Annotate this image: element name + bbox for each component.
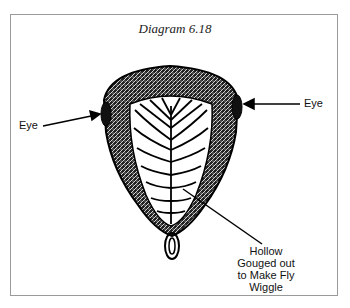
hollow-line-3: to Make Fly <box>226 269 306 281</box>
eye-label-left: Eye <box>19 119 38 131</box>
eye-label-right: Eye <box>304 97 323 109</box>
hollow-line-2: Gouged out <box>226 257 306 269</box>
hollow-line-1: Hollow <box>226 245 306 257</box>
hollow-line-4: Wiggle <box>226 281 306 293</box>
hollow-annotation: Hollow Gouged out to Make Fly Wiggle <box>226 245 306 293</box>
